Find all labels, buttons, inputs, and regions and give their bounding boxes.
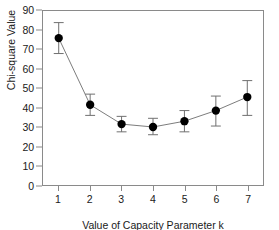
data-point-marker — [212, 106, 220, 114]
plot-area — [42, 10, 264, 186]
y-tick-label: 40 — [23, 102, 34, 114]
y-tick-label: 30 — [23, 121, 34, 133]
x-tick-label: 1 — [55, 193, 61, 205]
y-tick-label: 80 — [23, 24, 34, 36]
y-tick-label: 60 — [23, 63, 34, 75]
x-tick-label: 7 — [245, 193, 251, 205]
data-point-marker — [149, 123, 157, 131]
y-tick-label: 10 — [23, 160, 34, 172]
y-tick-label: 20 — [23, 141, 34, 153]
series-layer — [43, 11, 263, 185]
x-tick-mark — [185, 186, 186, 191]
data-point-marker — [243, 93, 251, 101]
y-tick-label: 70 — [23, 43, 34, 55]
x-axis: 1234567 — [42, 186, 264, 210]
x-tick-mark — [58, 186, 59, 191]
series-line — [59, 38, 248, 127]
x-tick-mark — [153, 186, 154, 191]
x-tick-label: 6 — [214, 193, 220, 205]
x-tick-mark — [248, 186, 249, 191]
y-axis-title: Chi-square Value — [5, 0, 17, 110]
x-tick-label: 4 — [150, 193, 156, 205]
data-point-marker — [180, 117, 188, 125]
chi-square-line-chart: 0102030405060708090 Chi-square Value 123… — [0, 0, 279, 230]
y-tick-label: 0 — [28, 180, 34, 192]
y-tick-label: 90 — [23, 4, 34, 16]
x-tick-mark — [216, 186, 217, 191]
x-tick-mark — [121, 186, 122, 191]
x-tick-label: 3 — [118, 193, 124, 205]
x-tick-label: 2 — [87, 193, 93, 205]
x-tick-mark — [90, 186, 91, 191]
data-point-marker — [117, 120, 125, 128]
y-tick-label: 50 — [23, 82, 34, 94]
x-tick-label: 5 — [182, 193, 188, 205]
data-point-marker — [55, 34, 63, 42]
x-axis-title: Value of Capacity Parameter k — [42, 219, 264, 230]
data-point-marker — [86, 101, 94, 109]
